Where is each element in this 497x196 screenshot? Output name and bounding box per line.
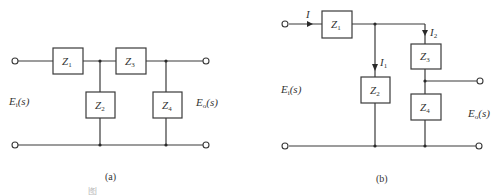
input-terminal-top bbox=[282, 21, 288, 27]
current-arrow-i bbox=[307, 21, 313, 27]
junction-dot bbox=[373, 22, 376, 25]
circuit-figure: Z1 Z3 Z2 Z4 Ei(s) Eo(s) (a) bbox=[0, 0, 497, 196]
caption-prefix: 图 bbox=[88, 187, 97, 196]
circuit-b: Z1 Z2 Z3 Z4 I I1 I2 Ei(s) Eo(s) (b) bbox=[280, 8, 490, 185]
junction-dot bbox=[164, 143, 167, 146]
label-output-voltage-a: Eo(s) bbox=[195, 96, 218, 110]
junction-dot bbox=[423, 144, 426, 147]
current-arrow-i1 bbox=[372, 64, 378, 71]
circuit-a: Z1 Z3 Z2 Z4 Ei(s) Eo(s) (a) bbox=[8, 48, 218, 183]
current-arrow-i2 bbox=[422, 30, 428, 36]
output-terminal-top bbox=[477, 78, 483, 84]
label-current-i2: I2 bbox=[429, 26, 438, 40]
label-current-i1: I1 bbox=[379, 56, 388, 70]
junction-dot bbox=[164, 59, 167, 62]
junction-dot bbox=[98, 143, 101, 146]
label-input-voltage-a: Ei(s) bbox=[8, 95, 30, 109]
junction-dot bbox=[98, 59, 101, 62]
label-output-voltage-b: Eo(s) bbox=[467, 107, 490, 121]
output-terminal-top bbox=[203, 58, 209, 64]
caption-a: (a) bbox=[105, 171, 116, 183]
junction-dot bbox=[373, 144, 376, 147]
input-terminal-bottom bbox=[282, 143, 288, 149]
junction-dot bbox=[423, 79, 426, 82]
label-current-i: I bbox=[305, 8, 311, 20]
input-terminal-top bbox=[12, 58, 18, 64]
output-terminal-bottom bbox=[476, 143, 482, 149]
input-terminal-bottom bbox=[12, 142, 18, 148]
figure-caption-clipped: 图 bbox=[0, 187, 497, 196]
caption-b: (b) bbox=[376, 173, 388, 185]
label-input-voltage-b: Ei(s) bbox=[280, 83, 302, 97]
output-terminal-bottom bbox=[203, 142, 209, 148]
